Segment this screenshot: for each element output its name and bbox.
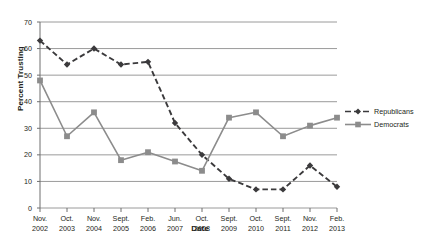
x-tick-label: Feb.2013 bbox=[319, 214, 355, 233]
data-point-republicans bbox=[280, 186, 286, 192]
y-tick-label: 0 bbox=[10, 204, 32, 213]
data-point-democrats bbox=[64, 133, 70, 139]
y-tick-label: 70 bbox=[10, 18, 32, 27]
series-line-democrats bbox=[40, 80, 337, 170]
x-tick-year: 2013 bbox=[319, 224, 355, 234]
y-tick-label: 50 bbox=[10, 71, 32, 80]
data-point-democrats bbox=[307, 123, 313, 129]
trust-by-party-line-chart: Percent Trusting Date 010203040506070 No… bbox=[0, 0, 429, 243]
data-point-democrats bbox=[199, 168, 205, 174]
data-point-democrats bbox=[91, 109, 97, 115]
data-point-republicans bbox=[253, 186, 259, 192]
legend-label-democrats: Democrats bbox=[374, 120, 409, 129]
data-point-democrats bbox=[280, 133, 286, 139]
series-line-republicans bbox=[40, 41, 337, 190]
data-point-democrats bbox=[172, 159, 178, 165]
legend-swatch-democrats bbox=[345, 120, 371, 129]
y-tick-label: 60 bbox=[10, 44, 32, 53]
y-tick-label: 20 bbox=[10, 150, 32, 159]
chart-legend: Republicans Democrats bbox=[345, 105, 414, 131]
y-tick-label: 10 bbox=[10, 177, 32, 186]
data-point-democrats bbox=[145, 149, 151, 155]
data-point-republicans bbox=[145, 59, 151, 65]
legend-item-democrats: Democrats bbox=[345, 118, 414, 131]
x-tick-month: Feb. bbox=[319, 214, 355, 224]
data-point-democrats bbox=[226, 115, 232, 121]
legend-item-republicans: Republicans bbox=[345, 105, 414, 118]
data-point-democrats bbox=[37, 78, 43, 84]
data-point-democrats bbox=[334, 115, 340, 121]
y-tick-label: 40 bbox=[10, 97, 32, 106]
data-point-democrats bbox=[118, 157, 124, 163]
y-tick-label: 30 bbox=[10, 124, 32, 133]
data-point-democrats bbox=[253, 109, 259, 115]
legend-swatch-republicans bbox=[345, 107, 371, 116]
legend-label-republicans: Republicans bbox=[374, 107, 414, 116]
